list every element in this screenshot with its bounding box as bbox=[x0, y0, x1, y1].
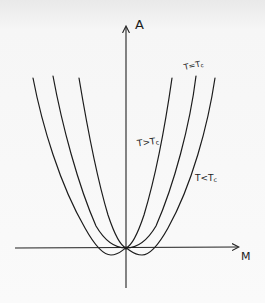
label-t-less-tc: T<Tc bbox=[195, 174, 217, 183]
label-t-less-tc-main: T<T bbox=[195, 173, 214, 183]
y-axis-label: A bbox=[135, 18, 144, 31]
diagram-svg bbox=[0, 0, 265, 303]
landau-free-energy-diagram: A M T=Tc T>Tc T<Tc bbox=[0, 0, 265, 303]
label-t-less-tc-sub: c bbox=[214, 176, 217, 183]
x-axis-label: M bbox=[241, 251, 251, 262]
curve-t-equal-tc bbox=[53, 76, 196, 248]
origin-point bbox=[124, 246, 127, 249]
curve-t-less-tc bbox=[33, 78, 215, 255]
